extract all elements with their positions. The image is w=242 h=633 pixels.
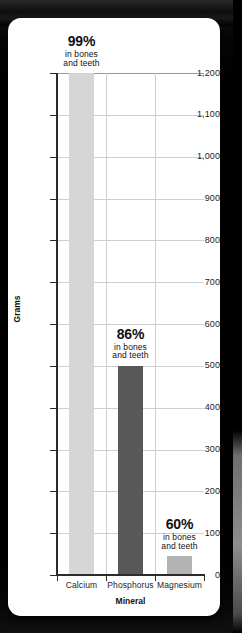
x-tick-3 bbox=[204, 574, 205, 581]
y-tick-label-1200: 1,200 bbox=[180, 69, 220, 78]
y-tick-label-900: 900 bbox=[180, 194, 220, 203]
callout-line-2: and teeth bbox=[97, 351, 165, 360]
y-tick-1100 bbox=[50, 115, 57, 116]
y-tick-500 bbox=[50, 366, 57, 367]
callout-percent: 86% bbox=[97, 327, 165, 342]
y-tick-600 bbox=[50, 324, 57, 325]
callout-percent: 60% bbox=[146, 517, 214, 532]
y-tick-label-1100: 1,100 bbox=[180, 110, 220, 119]
y-tick-label-400: 400 bbox=[180, 403, 220, 412]
gridline-x-2 bbox=[155, 73, 156, 575]
callout-phosphorus: 86%in bonesand teeth bbox=[97, 327, 165, 361]
y-tick-label-600: 600 bbox=[180, 320, 220, 329]
y-tick-label-500: 500 bbox=[180, 361, 220, 370]
y-tick-1000 bbox=[50, 157, 57, 158]
callout-line-2: and teeth bbox=[48, 59, 116, 68]
y-tick-label-0: 0 bbox=[180, 571, 220, 580]
x-label-calcium: Calcium bbox=[57, 580, 106, 590]
mineral-bar-chart: 01002003004005006007008009001,0001,1001,… bbox=[8, 18, 220, 616]
gridline-x-1 bbox=[106, 73, 107, 575]
y-tick-800 bbox=[50, 240, 57, 241]
y-tick-100 bbox=[50, 533, 57, 534]
y-tick-1200 bbox=[50, 73, 57, 74]
x-axis-title: Mineral bbox=[57, 596, 204, 606]
y-tick-400 bbox=[50, 408, 57, 409]
bar-phosphorus bbox=[118, 366, 143, 575]
callout-line-2: and teeth bbox=[146, 542, 214, 551]
y-tick-0 bbox=[50, 575, 57, 576]
chart-card: 01002003004005006007008009001,0001,1001,… bbox=[8, 18, 220, 616]
backdrop-right-edge-strip bbox=[233, 0, 242, 633]
y-tick-label-1000: 1,000 bbox=[180, 152, 220, 161]
y-tick-700 bbox=[50, 282, 57, 283]
callout-calcium: 99%in bonesand teeth bbox=[48, 34, 116, 68]
y-tick-label-200: 200 bbox=[180, 487, 220, 496]
y-axis-title: Grams bbox=[12, 284, 22, 334]
y-tick-200 bbox=[50, 491, 57, 492]
x-label-magnesium: Magnesium bbox=[155, 580, 204, 590]
callout-magnesium: 60%in bonesand teeth bbox=[146, 517, 214, 551]
callout-percent: 99% bbox=[48, 34, 116, 49]
y-tick-900 bbox=[50, 199, 57, 200]
y-tick-label-800: 800 bbox=[180, 236, 220, 245]
y-tick-300 bbox=[50, 450, 57, 451]
y-tick-label-300: 300 bbox=[180, 445, 220, 454]
y-tick-label-700: 700 bbox=[180, 278, 220, 287]
x-label-phosphorus: Phosphorus bbox=[106, 580, 155, 590]
bar-calcium bbox=[69, 73, 94, 575]
